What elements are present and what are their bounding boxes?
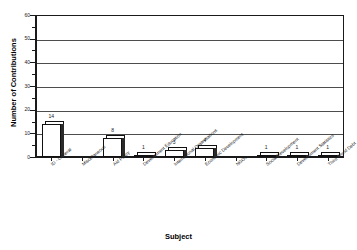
y-tick-label-0: 0 xyxy=(4,155,30,160)
bar-slot: 8 xyxy=(103,15,122,157)
bar-slot: 14 xyxy=(42,15,61,157)
x-tick xyxy=(328,157,329,161)
x-tick xyxy=(51,157,52,161)
bar-slot: 1 xyxy=(134,15,153,157)
bars-group: 148134111 xyxy=(36,15,343,157)
bar-slot: 1 xyxy=(257,15,276,157)
bar-slot xyxy=(73,15,92,157)
x-tick xyxy=(82,157,83,161)
bar[interactable] xyxy=(42,124,61,157)
bar-value-label: 1 xyxy=(134,145,153,150)
bar-slot: 1 xyxy=(287,15,306,157)
chart-title-clipped xyxy=(0,0,357,9)
x-axis-title: Subject xyxy=(0,232,357,241)
x-tick xyxy=(174,157,175,161)
bar-value-label: 14 xyxy=(42,114,61,119)
x-axis-labels: ID - GeneralMiscellaneousAid PolicyDevel… xyxy=(0,160,357,230)
y-axis-title: Number of Contributions xyxy=(9,18,18,148)
x-tick xyxy=(297,157,298,161)
x-tick xyxy=(113,157,114,161)
x-tick xyxy=(143,157,144,161)
x-tick xyxy=(205,157,206,161)
bar-value-label: 8 xyxy=(103,128,122,133)
x-tick xyxy=(266,157,267,161)
x-tick xyxy=(236,157,237,161)
bar-value-label: 1 xyxy=(257,145,276,150)
bar-chart: 60 50 40 30 20 10 0 Number of Contributi… xyxy=(0,0,357,250)
